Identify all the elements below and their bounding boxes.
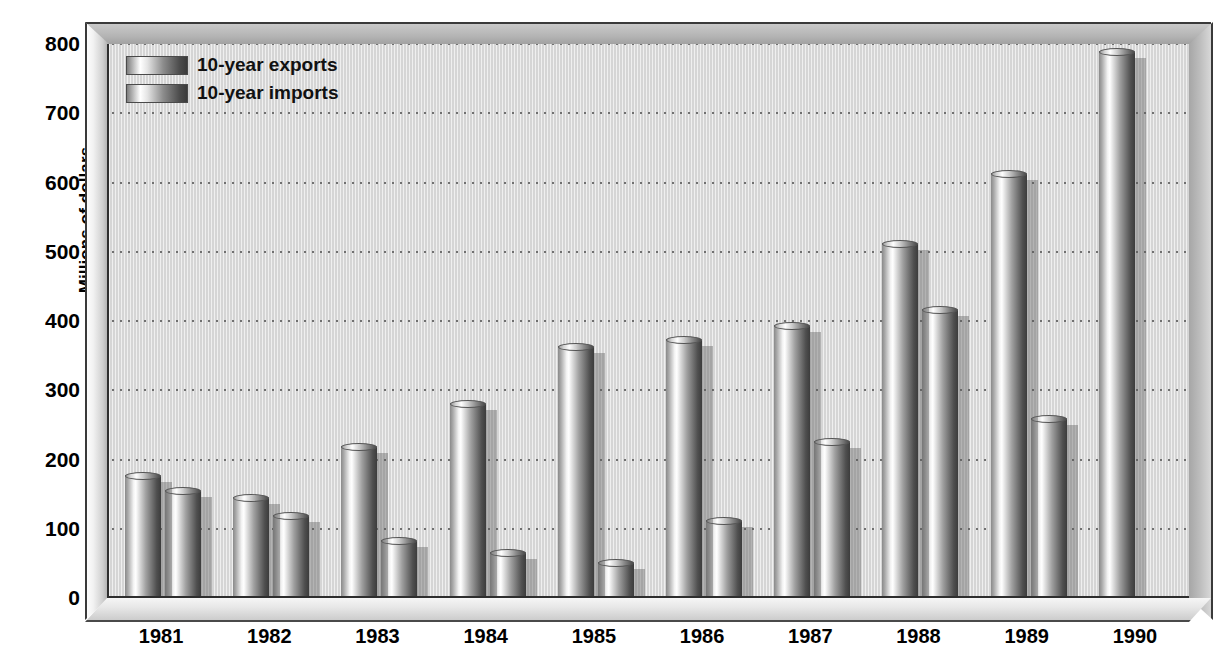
x-tick-label: 1989 [977, 625, 1077, 648]
gridline [109, 44, 1189, 45]
y-tick-label: 300 [4, 379, 80, 400]
x-tick-label: 1986 [652, 625, 752, 648]
legend-label-imports: 10-year imports [197, 82, 339, 104]
y-tick-label: 100 [4, 518, 80, 539]
gridline [109, 112, 1189, 114]
y-tick-label: 200 [4, 449, 80, 470]
legend-swatch-imports [126, 84, 188, 103]
x-tick-label: 1982 [219, 625, 319, 648]
bar-10-year-exports-1985 [558, 346, 594, 596]
frame-left-wall [85, 22, 109, 620]
x-tick-label: 1984 [436, 625, 536, 648]
plot-area: 10-year exports 10-year imports [107, 44, 1189, 598]
frame-top-bevel [85, 22, 1211, 46]
chart-legend: 10-year exports 10-year imports [126, 52, 339, 108]
y-tick-label: 0 [4, 587, 80, 608]
chart-figure: Millions of dollars 01002003004005006007… [0, 0, 1219, 660]
x-tick-label: 1987 [760, 625, 860, 648]
x-axis-tick-labels: 1981198219831984198519861987198819891990 [0, 625, 1219, 655]
frame-bottom-floor [85, 598, 1211, 622]
bar-10-year-exports-1986 [666, 339, 702, 596]
bar-10-year-exports-1988 [882, 243, 918, 596]
x-tick-label: 1981 [111, 625, 211, 648]
frame-right-wall [1189, 22, 1213, 620]
x-tick-label: 1985 [544, 625, 644, 648]
bar-10-year-exports-1983 [341, 446, 377, 596]
legend-item-exports: 10-year exports [126, 52, 339, 78]
y-tick-label: 600 [4, 172, 80, 193]
bar-10-year-exports-1982 [233, 497, 269, 596]
y-tick-label: 500 [4, 241, 80, 262]
y-tick-label: 400 [4, 310, 80, 331]
legend-label-exports: 10-year exports [197, 54, 337, 76]
y-axis-tick-labels: 0100200300400500600700800 [0, 0, 80, 660]
x-tick-label: 1990 [1085, 625, 1185, 648]
y-tick-label: 700 [4, 102, 80, 123]
bar-10-year-exports-1990 [1099, 51, 1135, 596]
bar-10-year-exports-1984 [450, 403, 486, 597]
legend-item-imports: 10-year imports [126, 80, 339, 106]
bar-10-year-exports-1989 [991, 173, 1027, 596]
bar-10-year-exports-1981 [125, 475, 161, 596]
bar-10-year-exports-1987 [774, 325, 810, 596]
y-tick-label: 800 [4, 33, 80, 54]
x-tick-label: 1983 [328, 625, 428, 648]
legend-swatch-exports [126, 56, 188, 75]
x-tick-label: 1988 [869, 625, 969, 648]
